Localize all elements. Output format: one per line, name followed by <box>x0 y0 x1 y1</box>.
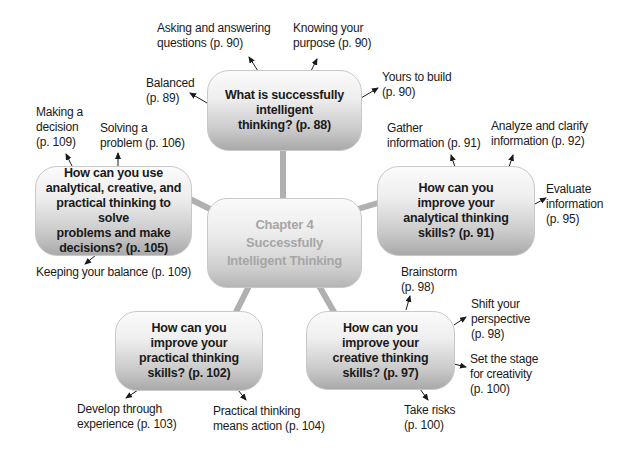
node-text: How can you improve your creative thinki… <box>333 321 429 381</box>
label-keeping-balance: Keeping your balance (p. 109) <box>36 265 191 280</box>
node-center-chapter: Chapter 4 Successfully Intelligent Think… <box>207 198 362 288</box>
node-practical-thinking: How can you improve your practical think… <box>115 311 263 391</box>
node-analytical-thinking: How can you improve your analytical thin… <box>377 166 535 256</box>
label-making-decision: Making a decision (p. 109) <box>36 105 83 150</box>
mind-map-diagram: What is successfully intelligent thinkin… <box>0 0 635 460</box>
node-text: How can you use analytical, creative, an… <box>44 166 183 256</box>
connector-left <box>192 200 210 209</box>
label-yours-to-build: Yours to build (p. 90) <box>382 70 451 100</box>
label-evaluate-information: Evaluate information (p. 95) <box>546 182 603 227</box>
connector-bottom-right <box>318 284 334 312</box>
node-use-thinking-to-solve-problems: How can you use analytical, creative, an… <box>35 166 192 256</box>
node-text: What is successfully intelligent thinkin… <box>225 88 344 133</box>
label-brainstorm: Brainstorm (p. 98) <box>401 265 457 295</box>
label-analyze-clarify: Analyze and clarify information (p. 92) <box>491 119 588 149</box>
label-gather-information: Gather information (p. 91) <box>387 121 481 151</box>
label-practical-action: Practical thinking means action (p. 104) <box>213 404 325 434</box>
node-text: How can you improve your practical think… <box>139 321 239 381</box>
label-solving-problem: Solving a problem (p. 106) <box>100 121 185 151</box>
node-text: How can you improve your analytical thin… <box>403 181 508 241</box>
label-develop-experience: Develop through experience (p. 103) <box>77 402 177 432</box>
label-balanced: Balanced (p. 89) <box>146 76 194 106</box>
label-set-the-stage: Set the stage for creativity (p. 100) <box>470 352 538 397</box>
connector-right <box>358 203 378 209</box>
label-shift-perspective: Shift your perspective (p. 98) <box>471 297 530 342</box>
label-asking-answering: Asking and answering questions (p. 90) <box>157 21 270 51</box>
center-title: Chapter 4 Successfully Intelligent Think… <box>227 216 342 270</box>
label-take-risks: Take risks (p. 100) <box>404 403 455 433</box>
connector-bottom-left <box>236 284 250 312</box>
node-what-is-successfully-intelligent: What is successfully intelligent thinkin… <box>207 70 362 151</box>
node-creative-thinking: How can you improve your creative thinki… <box>306 311 455 390</box>
label-knowing-purpose: Knowing your purpose (p. 90) <box>293 21 371 51</box>
